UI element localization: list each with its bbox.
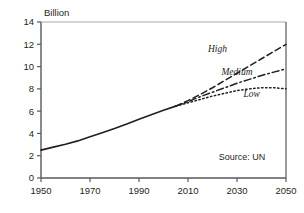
series-label-medium: Medium [220, 67, 252, 77]
y-tick-label: 14 [23, 16, 34, 27]
y-tick-label: 0 [29, 172, 34, 183]
population-projection-chart: 02468101214 195019701990201020302050 Bil… [0, 0, 304, 213]
x-tick-label: 1950 [30, 185, 51, 196]
chart-canvas: 02468101214 195019701990201020302050 Bil… [0, 0, 304, 213]
y-tick-label: 8 [29, 83, 34, 94]
x-tick-label: 1990 [128, 185, 149, 196]
series-label-low: Low [243, 89, 261, 99]
x-tick-label: 2010 [177, 185, 198, 196]
annotation-group: Source: UN [219, 152, 266, 162]
y-tick-label: 12 [23, 39, 34, 50]
y-axis-title: Billion [44, 7, 69, 18]
series-label-high: High [207, 44, 227, 54]
series-line-estimates [41, 106, 176, 150]
y-tick-label: 2 [29, 150, 34, 161]
series-label-group: HighMediumLow [207, 44, 261, 99]
source-annotation: Source: UN [219, 152, 266, 162]
x-tick-label: 2030 [226, 185, 247, 196]
x-tick-label: 2050 [275, 185, 296, 196]
series-line-low [176, 88, 286, 106]
y-tick-label: 4 [29, 128, 34, 139]
y-tick-group: 02468101214 [23, 16, 41, 183]
x-tick-label: 1970 [79, 185, 100, 196]
y-tick-label: 10 [23, 61, 34, 72]
x-tick-group: 195019701990201020302050 [30, 178, 296, 196]
y-tick-label: 6 [29, 106, 34, 117]
